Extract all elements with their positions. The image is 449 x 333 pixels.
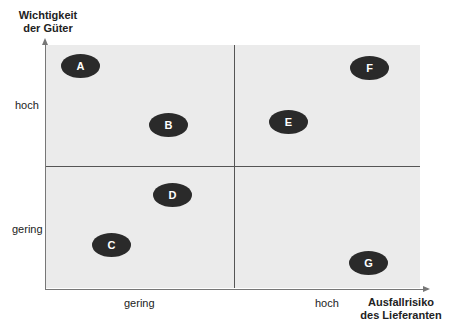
x-axis-title-line1: Ausfallrisiko [356, 296, 446, 309]
item-label: F [366, 62, 373, 74]
y-tick-low: gering [12, 223, 43, 235]
item-label: A [77, 60, 85, 72]
y-tick-high: hoch [15, 99, 39, 111]
item-label: B [165, 119, 173, 131]
x-tick-high: hoch [315, 297, 339, 309]
item-c: C [92, 233, 131, 257]
item-label: E [285, 116, 292, 128]
item-g: G [349, 251, 388, 275]
x-axis [45, 289, 423, 290]
item-f: F [350, 56, 389, 80]
item-e: E [269, 110, 308, 134]
y-axis-title-line2: der Güter [8, 22, 88, 35]
x-axis-title: Ausfallrisiko des Lieferanten [356, 296, 446, 322]
item-label: G [364, 257, 373, 269]
item-label: C [108, 239, 116, 251]
horizontal-divider [46, 166, 420, 167]
x-axis-title-line2: des Lieferanten [356, 309, 446, 322]
y-axis-title-line1: Wichtigkeit [8, 9, 88, 22]
x-axis-arrow-icon [423, 286, 430, 292]
y-axis-title: Wichtigkeit der Güter [8, 9, 88, 35]
item-d: D [153, 183, 192, 207]
x-tick-low: gering [124, 297, 155, 309]
y-axis [45, 44, 46, 290]
y-axis-arrow-icon [42, 38, 48, 45]
item-b: B [149, 113, 188, 137]
item-label: D [169, 189, 177, 201]
item-a: A [61, 54, 100, 78]
